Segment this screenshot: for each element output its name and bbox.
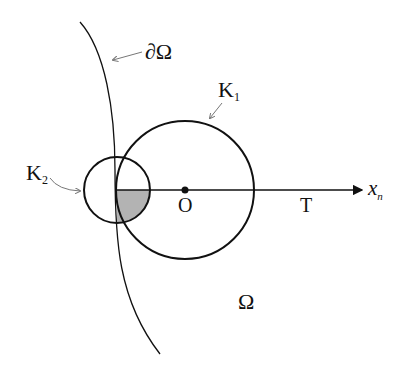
t-label: T xyxy=(300,194,312,216)
boundary-label: ∂Ω xyxy=(145,39,172,64)
diagram: ∂Ω K1 K2 O T xn Ω xyxy=(0,0,404,377)
k2-pointer xyxy=(50,178,80,191)
k2-label: K2 xyxy=(26,160,48,187)
domain-label: Ω xyxy=(238,289,254,314)
k1-label: K1 xyxy=(218,77,240,104)
boundary-pointer xyxy=(113,52,142,60)
origin-label: O xyxy=(178,194,192,216)
origin-point xyxy=(182,187,189,194)
xn-label: xn xyxy=(367,176,383,202)
boundary-curve xyxy=(80,22,160,354)
k1-pointer xyxy=(210,103,222,118)
